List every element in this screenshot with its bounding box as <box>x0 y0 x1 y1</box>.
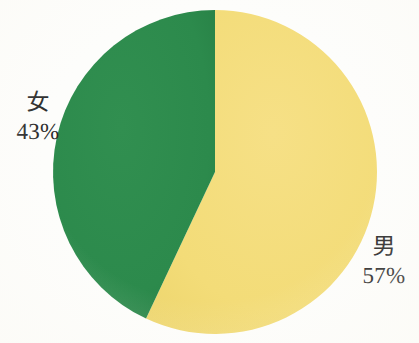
pie-label-female: 女 43% <box>2 90 74 145</box>
pie-slices <box>53 10 377 334</box>
pie-label-male-name: 男 <box>350 234 418 261</box>
pie-chart-figure: 女 43% 男 57% <box>0 0 419 343</box>
pie-label-female-name: 女 <box>2 90 74 117</box>
pie-label-male: 男 57% <box>350 234 418 289</box>
pie-label-female-value: 43% <box>2 118 74 145</box>
pie-label-male-value: 57% <box>350 262 418 289</box>
pie-chart-svg <box>0 0 419 343</box>
